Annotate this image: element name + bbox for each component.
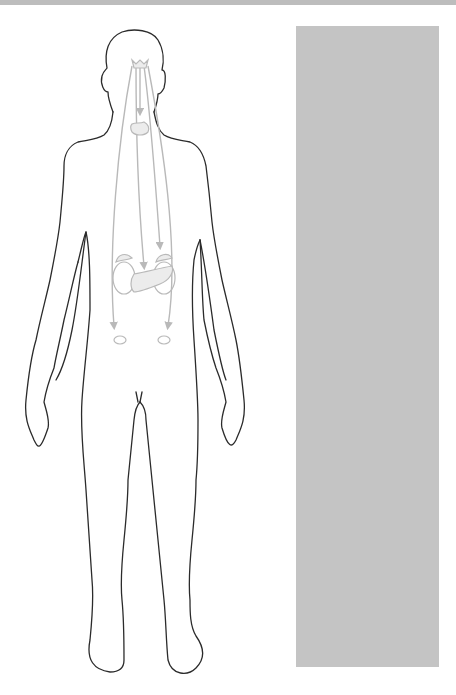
head-outline xyxy=(101,30,165,112)
glands xyxy=(113,60,175,344)
crotch-line xyxy=(136,392,142,402)
diagram-canvas xyxy=(0,0,456,695)
gonad-right xyxy=(158,336,170,344)
gonad-left xyxy=(114,336,126,344)
pituitary-gland xyxy=(132,60,148,68)
pancreas-gland xyxy=(131,266,173,292)
arrow-to-adrenal-right xyxy=(144,66,160,246)
right-torso-edge xyxy=(140,240,203,673)
left-torso-edge xyxy=(78,232,140,672)
left-inner-arm xyxy=(56,232,86,380)
label-panel xyxy=(296,26,439,667)
adrenal-left xyxy=(116,255,132,262)
adrenal-right xyxy=(156,255,172,262)
thyroid-gland xyxy=(131,122,149,135)
left-side-outline xyxy=(26,112,113,446)
